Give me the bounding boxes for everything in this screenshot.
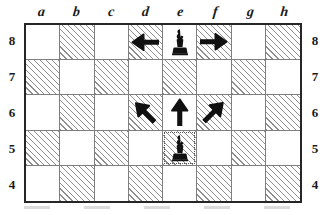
board-square-g8[interactable] xyxy=(232,25,266,60)
board-square-e4[interactable] xyxy=(163,166,197,201)
arrow-up-right-f6 xyxy=(193,91,235,133)
file-label-f: f xyxy=(197,1,234,23)
rank-label-right-4: 4 xyxy=(304,167,326,203)
board-square-e6[interactable] xyxy=(163,95,197,130)
file-label-c: c xyxy=(92,1,129,23)
black-piece-e8[interactable] xyxy=(167,27,193,57)
board-square-d5[interactable] xyxy=(129,131,163,166)
board-square-g5[interactable] xyxy=(232,131,266,166)
rank-label-right-7: 7 xyxy=(304,59,326,95)
board-square-c5[interactable] xyxy=(95,131,129,166)
file-label-d: d xyxy=(127,1,164,23)
file-label-g: g xyxy=(231,1,268,23)
arrow-left-d8 xyxy=(130,27,160,57)
rank-label-right-6: 6 xyxy=(304,95,326,131)
board-square-f4[interactable] xyxy=(197,166,231,201)
board-square-g7[interactable] xyxy=(232,60,266,95)
board-square-e5[interactable] xyxy=(163,131,197,166)
board-square-a4[interactable] xyxy=(26,166,60,201)
board-square-f8[interactable] xyxy=(197,25,231,60)
board-square-h8[interactable] xyxy=(266,25,300,60)
rank-label-right-8: 8 xyxy=(304,23,326,59)
board-square-h4[interactable] xyxy=(266,166,300,201)
arrow-right-f8 xyxy=(199,27,229,57)
scan-artifact xyxy=(24,206,302,209)
board-square-b5[interactable] xyxy=(60,131,94,166)
chess-diagram: a b c d e f g h 8 7 6 5 4 8 7 6 5 4 xyxy=(0,0,327,215)
board-square-f5[interactable] xyxy=(197,131,231,166)
board-square-c6[interactable] xyxy=(95,95,129,130)
board-square-g4[interactable] xyxy=(232,166,266,201)
arrow-up-left-d6 xyxy=(124,91,166,133)
board-square-d4[interactable] xyxy=(129,166,163,201)
file-label-h: h xyxy=(266,1,303,23)
arrow-up-e6 xyxy=(165,97,195,127)
file-label-a: a xyxy=(23,1,60,23)
rank-label-left-6: 6 xyxy=(1,95,23,131)
rank-label-column-left: 8 7 6 5 4 xyxy=(1,23,23,203)
board-square-e8[interactable] xyxy=(163,25,197,60)
board-square-g6[interactable] xyxy=(232,95,266,130)
board-square-h7[interactable] xyxy=(266,60,300,95)
board-square-h5[interactable] xyxy=(266,131,300,166)
file-label-row: a b c d e f g h xyxy=(24,1,302,23)
rank-label-left-5: 5 xyxy=(1,131,23,167)
chess-board xyxy=(24,23,302,203)
board-square-a5[interactable] xyxy=(26,131,60,166)
board-square-d8[interactable] xyxy=(129,25,163,60)
board-square-e7[interactable] xyxy=(163,60,197,95)
board-square-d6[interactable] xyxy=(129,95,163,130)
rank-label-left-8: 8 xyxy=(1,23,23,59)
board-square-f6[interactable] xyxy=(197,95,231,130)
black-piece-e5[interactable] xyxy=(167,133,193,163)
board-square-f7[interactable] xyxy=(197,60,231,95)
board-grid[interactable] xyxy=(26,25,300,201)
rank-label-left-4: 4 xyxy=(1,167,23,203)
board-square-c8[interactable] xyxy=(95,25,129,60)
board-square-a8[interactable] xyxy=(26,25,60,60)
board-square-c7[interactable] xyxy=(95,60,129,95)
rank-label-left-7: 7 xyxy=(1,59,23,95)
board-square-a7[interactable] xyxy=(26,60,60,95)
board-square-b6[interactable] xyxy=(60,95,94,130)
board-square-b4[interactable] xyxy=(60,166,94,201)
board-square-b7[interactable] xyxy=(60,60,94,95)
file-label-e: e xyxy=(162,1,199,23)
file-label-b: b xyxy=(58,1,95,23)
board-square-a6[interactable] xyxy=(26,95,60,130)
rank-label-column-right: 8 7 6 5 4 xyxy=(304,23,326,203)
rank-label-right-5: 5 xyxy=(304,131,326,167)
board-square-b8[interactable] xyxy=(60,25,94,60)
board-square-h6[interactable] xyxy=(266,95,300,130)
board-square-c4[interactable] xyxy=(95,166,129,201)
board-square-d7[interactable] xyxy=(129,60,163,95)
